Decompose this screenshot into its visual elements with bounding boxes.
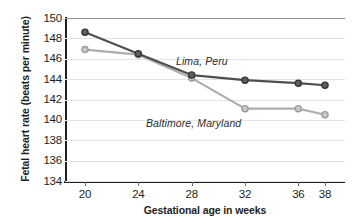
y-tick-label: 148 — [28, 32, 62, 45]
data-point-marker — [82, 46, 88, 52]
x-tick-label: 28 — [172, 188, 212, 200]
x-axis-title: Gestational age in weeks — [65, 204, 345, 216]
data-point-marker — [322, 82, 328, 88]
series-label-lima-peru: Lima, Peru — [176, 55, 228, 67]
data-point-marker — [242, 77, 248, 83]
y-axis-tick-labels: 134136138140142144146148150 — [28, 11, 62, 187]
y-tick-label: 142 — [28, 93, 62, 106]
x-axis-ticks — [65, 182, 345, 187]
x-tick-label: 38 — [305, 188, 345, 200]
x-tick — [298, 182, 299, 186]
x-tick — [325, 182, 326, 186]
y-tick-label: 138 — [28, 134, 62, 147]
y-tick-label: 136 — [28, 154, 62, 167]
data-point-marker — [322, 112, 328, 118]
data-point-marker — [82, 29, 88, 35]
series-layer — [65, 18, 345, 181]
data-point-marker — [135, 51, 141, 57]
y-tick-label: 134 — [28, 175, 62, 188]
data-point-marker — [295, 106, 301, 112]
x-tick-label: 32 — [225, 188, 265, 200]
x-tick — [245, 182, 246, 186]
series-label-baltimore-maryland: Baltimore, Maryland — [146, 117, 241, 129]
x-tick-label: 24 — [118, 188, 158, 200]
y-tick-label: 146 — [28, 52, 62, 65]
data-point-marker — [295, 80, 301, 86]
x-axis-tick-labels: 202428323638 — [65, 188, 345, 204]
plot-area — [65, 18, 345, 181]
y-tick-label: 150 — [28, 12, 62, 25]
x-tick — [138, 182, 139, 186]
data-point-marker — [189, 72, 195, 78]
fetal-heart-rate-line-chart: Fetal heart rate (beats per minute) 1341… — [0, 0, 354, 224]
y-tick-label: 140 — [28, 113, 62, 126]
data-point-marker — [242, 106, 248, 112]
x-tick-label: 20 — [65, 188, 105, 200]
y-tick-label: 144 — [28, 73, 62, 86]
x-tick — [192, 182, 193, 186]
x-tick — [85, 182, 86, 186]
